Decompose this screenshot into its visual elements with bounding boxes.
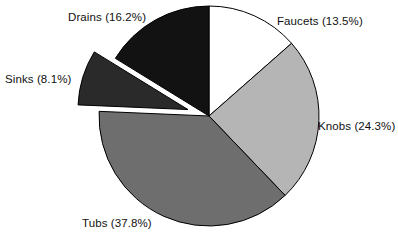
slice-label-knobs: Knobs (24.3%) — [318, 120, 395, 132]
slice-label-tubs: Tubs (37.8%) — [82, 217, 152, 229]
slice-label-sinks: Sinks (8.1%) — [5, 73, 71, 85]
pie-chart-canvas: Faucets (13.5%) Knobs (24.3%) Tubs (37.8… — [0, 0, 398, 244]
slice-label-drains: Drains (16.2%) — [68, 11, 146, 23]
pie-chart: Faucets (13.5%) Knobs (24.3%) Tubs (37.8… — [0, 0, 398, 244]
slice-label-faucets: Faucets (13.5%) — [277, 15, 363, 27]
